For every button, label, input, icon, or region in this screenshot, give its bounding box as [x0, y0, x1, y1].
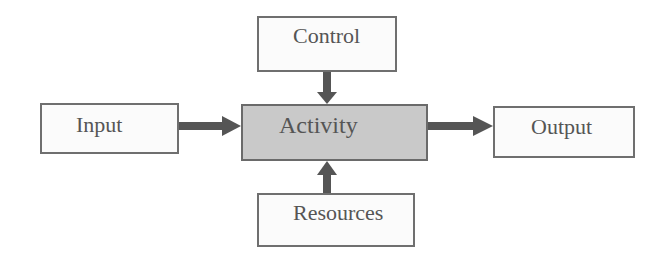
control-box: Control: [257, 16, 397, 72]
output-box: Output: [493, 106, 635, 158]
arrow-activity-to-output: [428, 116, 493, 136]
activity-box: Activity: [241, 104, 428, 161]
activity-label: Activity: [279, 112, 358, 139]
input-box: Input: [40, 103, 179, 154]
input-label: Input: [76, 112, 122, 138]
arrow-control-to-activity: [317, 72, 337, 104]
resources-label: Resources: [293, 200, 383, 226]
output-label: Output: [531, 114, 592, 140]
arrow-input-to-activity: [179, 116, 241, 136]
resources-box: Resources: [257, 193, 415, 247]
control-label: Control: [293, 23, 360, 49]
arrow-resources-to-activity: [317, 161, 337, 193]
